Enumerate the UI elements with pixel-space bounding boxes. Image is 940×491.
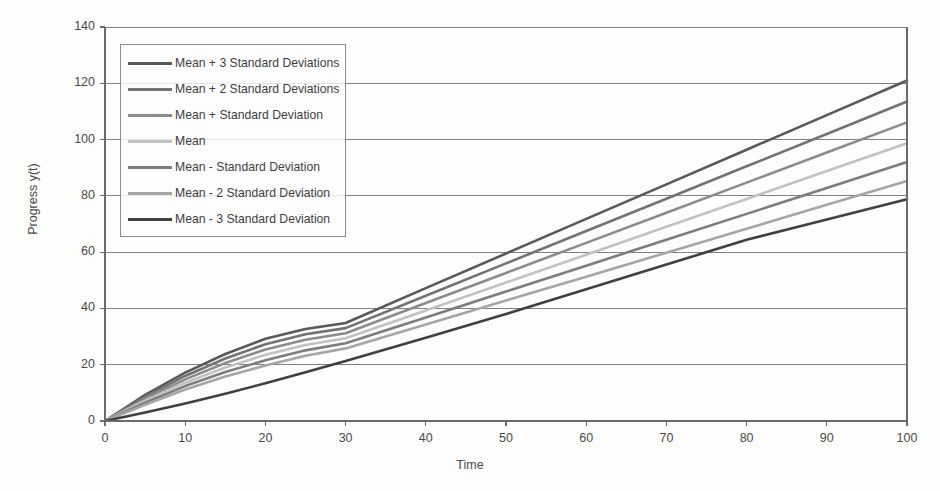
legend-color-swatch [128,166,172,169]
legend-item-label: Mean + Standard Deviation [175,108,323,122]
y-tick-label: 80 [57,188,95,202]
x-tick-label: 50 [486,431,526,445]
chart-container: 020406080100120140 010203040506070809010… [0,0,940,491]
x-tick-label: 20 [245,431,285,445]
legend-item-label: Mean - Standard Deviation [175,160,320,174]
y-tick-label: 60 [57,244,95,258]
x-tick-label: 80 [727,431,767,445]
legend-item[interactable]: Mean - 3 Standard Deviation [121,206,345,232]
x-axis-title: Time [0,458,940,472]
y-tick-label: 140 [57,19,95,33]
legend-color-swatch [128,62,172,65]
y-tick-label: 40 [57,300,95,314]
x-tick-label: 70 [646,431,686,445]
legend-item-label: Mean + 2 Standard Deviations [175,82,339,96]
y-axis-title: Progress y(t) [26,139,40,259]
x-tick-label: 40 [406,431,446,445]
legend-item[interactable]: Mean + 3 Standard Deviations [121,50,345,76]
legend-item[interactable]: Mean - 2 Standard Deviation [121,180,345,206]
y-tick-label: 0 [57,413,95,427]
legend-item-label: Mean + 3 Standard Deviations [175,56,339,70]
x-tick-label: 0 [85,431,125,445]
legend-item-label: Mean - 2 Standard Deviation [175,186,330,200]
legend-color-swatch [128,140,172,143]
y-tick-label: 120 [57,75,95,89]
x-tick-label: 90 [807,431,847,445]
legend-item[interactable]: Mean + Standard Deviation [121,102,345,128]
chart-legend: Mean + 3 Standard DeviationsMean + 2 Sta… [120,44,346,237]
legend-color-swatch [128,114,172,117]
x-tick-label: 60 [566,431,606,445]
x-tick-label: 30 [326,431,366,445]
y-tick-label: 20 [57,357,95,371]
legend-color-swatch [128,88,172,91]
y-tick-label: 100 [57,132,95,146]
legend-item[interactable]: Mean + 2 Standard Deviations [121,76,345,102]
legend-item[interactable]: Mean - Standard Deviation [121,154,345,180]
x-tick-label: 100 [887,431,927,445]
legend-item-label: Mean - 3 Standard Deviation [175,212,330,226]
legend-color-swatch [128,192,172,195]
legend-item[interactable]: Mean [121,128,345,154]
legend-color-swatch [128,218,172,221]
x-tick-label: 10 [165,431,205,445]
legend-item-label: Mean [175,134,206,148]
